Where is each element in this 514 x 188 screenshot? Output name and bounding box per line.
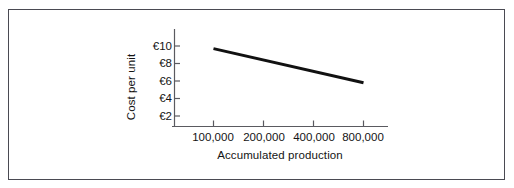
x-axis-title: Accumulated production xyxy=(170,149,390,161)
chart-figure: Cost per unit €10 €8 €6 €4 €2 100,000 20… xyxy=(0,0,514,188)
y-axis-title: Cost per unit xyxy=(125,42,137,132)
y-tick-label-6: €6 xyxy=(138,75,172,87)
y-tick-label-10: €10 xyxy=(138,40,172,52)
y-tick-label-4: €4 xyxy=(138,92,172,104)
y-tick-label-2: €2 xyxy=(138,110,172,122)
x-tick-label-800000: 800,000 xyxy=(331,131,395,143)
y-tick-label-8: €8 xyxy=(138,57,172,69)
